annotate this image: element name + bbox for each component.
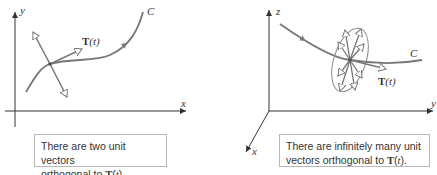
caption-vector: T (387, 155, 394, 166)
left-caption: There are two unit vectors orthogonal to… (34, 134, 167, 167)
caption-text: orthogonal to (41, 168, 105, 175)
z-axis-label: z (275, 5, 281, 17)
tangent-label: T(t) (82, 35, 100, 48)
curve-label: C (147, 5, 155, 17)
x-axis-label-3d: x (251, 145, 257, 157)
curve-label-3d: C (410, 47, 418, 59)
right-caption: There are infinitely many unit vectors o… (279, 134, 430, 167)
caption-text: vectors orthogonal to (286, 154, 387, 166)
x-axis-label: x (180, 97, 186, 109)
left-diagram: y x C T(t) (5, 4, 186, 127)
caption-text: There are two unit vectors (41, 140, 126, 166)
caption-text: ). (400, 154, 406, 166)
y-axis-label-3d: y (430, 97, 436, 109)
x-axis-3d (246, 111, 269, 152)
y-axis-label: y (19, 4, 25, 16)
caption-text: ). (119, 168, 125, 175)
caption-text: There are infinitely many unit (286, 140, 421, 152)
normal-vector-up (33, 32, 50, 64)
tangent-label-3d: T(t) (378, 75, 396, 88)
normal-vector-down (50, 64, 67, 97)
